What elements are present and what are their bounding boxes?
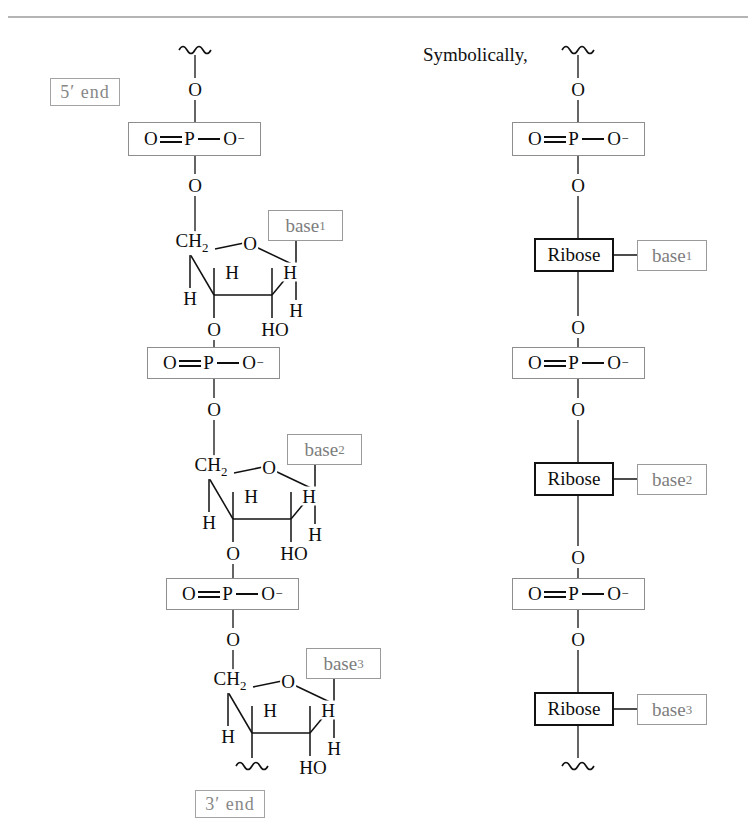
five-prime-end-text: 5′ end: [60, 82, 109, 103]
sym-phosphate-group-2: OPO−: [512, 347, 645, 379]
ring-o-ribose-1: O: [242, 234, 258, 253]
phosphate-2-left-o: O: [163, 352, 177, 374]
sym-base-3-subscript: 3: [686, 702, 692, 718]
atom-o-5prime-top: O: [187, 80, 203, 99]
sym-atom-o-below-phosphate-3: O: [570, 630, 586, 649]
sym-phosphate-1-charge: −: [621, 132, 629, 147]
ribose-box-1-text: Ribose: [548, 244, 601, 266]
sym-base-label-2: base2: [637, 464, 707, 495]
sym-atom-o-below-phosphate-1: O: [570, 176, 586, 195]
double-bond-icon: [179, 357, 201, 369]
ring-o-3prime-2: O: [225, 544, 241, 563]
sym-phosphate-1-p: P: [568, 128, 579, 150]
atom-o-below-phosphate-1: O: [187, 176, 203, 195]
single-bond-icon: [582, 138, 604, 140]
sym-atom-o-above-phosphate-3: O: [570, 548, 586, 567]
ring-ho-2prime-2: HO: [279, 544, 308, 563]
phosphate-3-charge: −: [275, 587, 283, 602]
sym-phosphate-3-left-o: O: [528, 583, 542, 605]
double-bond-icon: [160, 133, 182, 145]
squiggle-5prime: [179, 47, 211, 54]
base-3-subscript: 3: [357, 656, 363, 672]
sym-phosphate-2-p: P: [568, 352, 579, 374]
double-bond-icon: [544, 357, 566, 369]
sym-base-2-subscript: 2: [686, 472, 692, 488]
base-label-2: base2: [287, 434, 362, 465]
atom-ch2-ribose-3: CH2: [213, 669, 248, 693]
base-2-subscript: 2: [338, 442, 344, 458]
ribose-box-3: Ribose: [534, 692, 614, 726]
sym-base-label-3: base3: [637, 694, 707, 725]
base-label-1: base1: [268, 210, 343, 241]
phosphate-2-charge: −: [256, 356, 264, 371]
phosphate-2-p: P: [203, 352, 214, 374]
ring-h-outer-right-2: H: [307, 525, 323, 544]
atom-ch2-ribose-2: CH2: [194, 455, 229, 479]
sym-phosphate-3-charge: −: [621, 587, 629, 602]
phosphate-3-p: P: [222, 583, 233, 605]
sym-base-label-1: base1: [637, 240, 707, 271]
ribose-box-2-text: Ribose: [548, 468, 601, 490]
ring-h-inner-left-2: H: [243, 487, 259, 506]
double-bond-icon: [544, 588, 566, 600]
squiggle-3prime: [236, 763, 268, 770]
double-bond-icon: [544, 133, 566, 145]
single-bond-icon: [198, 138, 220, 140]
ring-h-inner-right-1: H: [282, 263, 298, 282]
ring-o-ribose-2: O: [261, 458, 277, 477]
ring-h-inner-left-3: H: [262, 701, 278, 720]
base-3-text: base: [323, 653, 357, 675]
ring-h-inner-right-3: H: [320, 701, 336, 720]
phosphate-group-2: OPO−: [147, 347, 280, 379]
ribose-box-1: Ribose: [534, 238, 614, 272]
figure-canvas: 5′ end O OPO− O CH2 O H H H H O HO base1…: [0, 0, 754, 835]
base-2-text: base: [304, 439, 338, 461]
phosphate-1-charge: −: [237, 132, 245, 147]
phosphate-1-right-o: O: [223, 128, 237, 150]
single-bond-icon: [217, 362, 239, 364]
sym-atom-o-below-phosphate-2: O: [570, 400, 586, 419]
sym-base-3-text: base: [652, 699, 686, 721]
squiggle-symbolic-bottom: [562, 763, 594, 770]
ring-ho-2prime-3: HO: [298, 758, 327, 777]
three-prime-end-label: 3′ end: [195, 790, 265, 818]
sym-base-2-text: base: [652, 469, 686, 491]
sym-base-1-subscript: 1: [686, 248, 692, 264]
sym-phosphate-2-charge: −: [621, 356, 629, 371]
sym-phosphate-group-1: OPO−: [512, 122, 645, 156]
single-bond-icon: [236, 593, 258, 595]
ring-h-outer-left-3: H: [220, 727, 236, 746]
phosphate-group-1: OPO−: [128, 122, 261, 156]
ring-h-inner-right-2: H: [301, 487, 317, 506]
single-bond-icon: [582, 593, 604, 595]
ring-o-ribose-3: O: [280, 672, 296, 691]
sym-atom-o-top: O: [570, 80, 586, 99]
phosphate-3-right-o: O: [261, 583, 275, 605]
base-label-3: base3: [306, 648, 381, 679]
squiggle-symbolic-top: [562, 47, 594, 54]
ring-ho-2prime-1: HO: [260, 320, 289, 339]
phosphate-group-3: OPO−: [166, 578, 299, 610]
ribose-box-3-text: Ribose: [548, 698, 601, 720]
sym-phosphate-3-right-o: O: [607, 583, 621, 605]
atom-o-below-phosphate-2: O: [206, 400, 222, 419]
phosphate-3-left-o: O: [182, 583, 196, 605]
symbolically-caption: Symbolically,: [423, 44, 528, 66]
phosphate-2-right-o: O: [242, 352, 256, 374]
sym-phosphate-3-p: P: [568, 583, 579, 605]
three-prime-end-text: 3′ end: [205, 794, 254, 815]
sym-phosphate-2-right-o: O: [607, 352, 621, 374]
sym-phosphate-group-3: OPO−: [512, 578, 645, 610]
base-1-text: base: [285, 215, 319, 237]
sym-base-1-text: base: [652, 245, 686, 267]
sym-phosphate-2-left-o: O: [528, 352, 542, 374]
single-bond-icon: [582, 362, 604, 364]
ring-h-inner-left-1: H: [224, 263, 240, 282]
double-bond-icon: [198, 588, 220, 600]
phosphate-1-p: P: [184, 128, 195, 150]
ring-h-outer-left-1: H: [182, 289, 198, 308]
ribose-box-2: Ribose: [534, 462, 614, 496]
atom-o-below-phosphate-3: O: [225, 630, 241, 649]
base-1-subscript: 1: [319, 218, 325, 234]
phosphate-1-left-o: O: [144, 128, 158, 150]
